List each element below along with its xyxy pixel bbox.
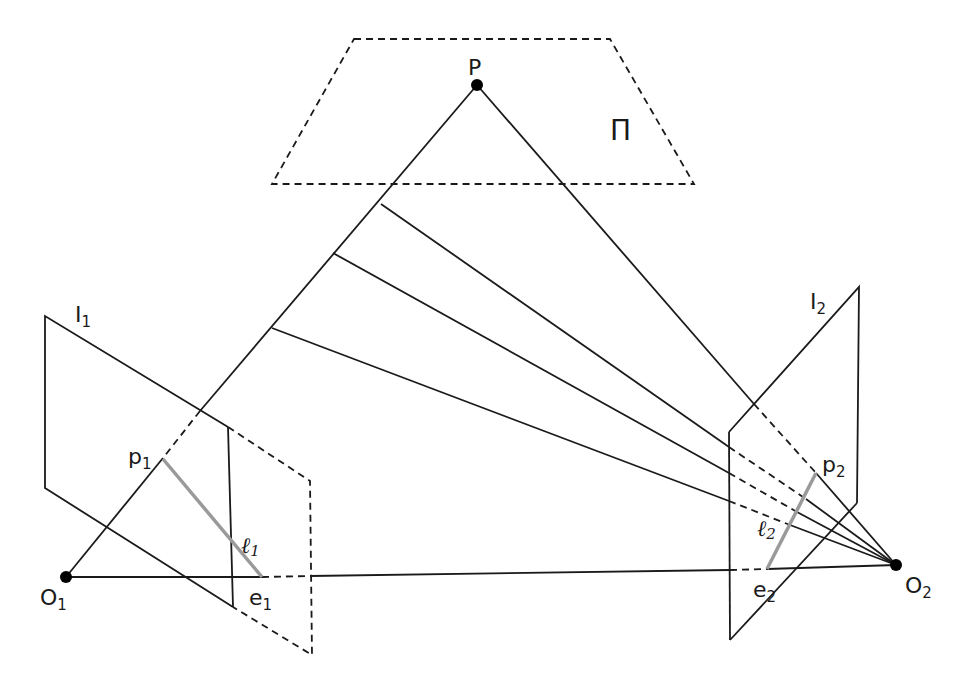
ray-p-o2 — [477, 85, 896, 565]
ray-intermediate-1 — [381, 204, 896, 565]
ray-o1-p — [66, 85, 477, 577]
label-p2: p2 — [822, 452, 846, 481]
label-P: P — [468, 55, 481, 80]
label-e2: e2 — [753, 577, 776, 606]
camera-center-o1 — [60, 571, 72, 583]
plane-pi — [272, 39, 694, 184]
camera-center-o2 — [890, 559, 902, 571]
label-image2: I2 — [810, 289, 826, 318]
epipolar-line-1 — [163, 459, 262, 577]
ray-intermediate-3 — [272, 328, 896, 565]
label-p1: p1 — [128, 444, 152, 473]
label-e1: e1 — [249, 585, 272, 614]
label-o2: O2 — [905, 573, 932, 602]
label-image1: I1 — [75, 302, 91, 331]
point-P — [471, 79, 483, 91]
baseline — [66, 565, 896, 577]
epipolar-diagram: P Π I1 I2 p1 p2 e1 e2 O1 O2 ℓ1 ℓ2 — [0, 0, 968, 686]
label-plane: Π — [610, 114, 631, 147]
label-l1: ℓ1 — [241, 533, 260, 560]
label-o1: O1 — [40, 585, 67, 614]
label-l2: ℓ2 — [757, 516, 776, 543]
